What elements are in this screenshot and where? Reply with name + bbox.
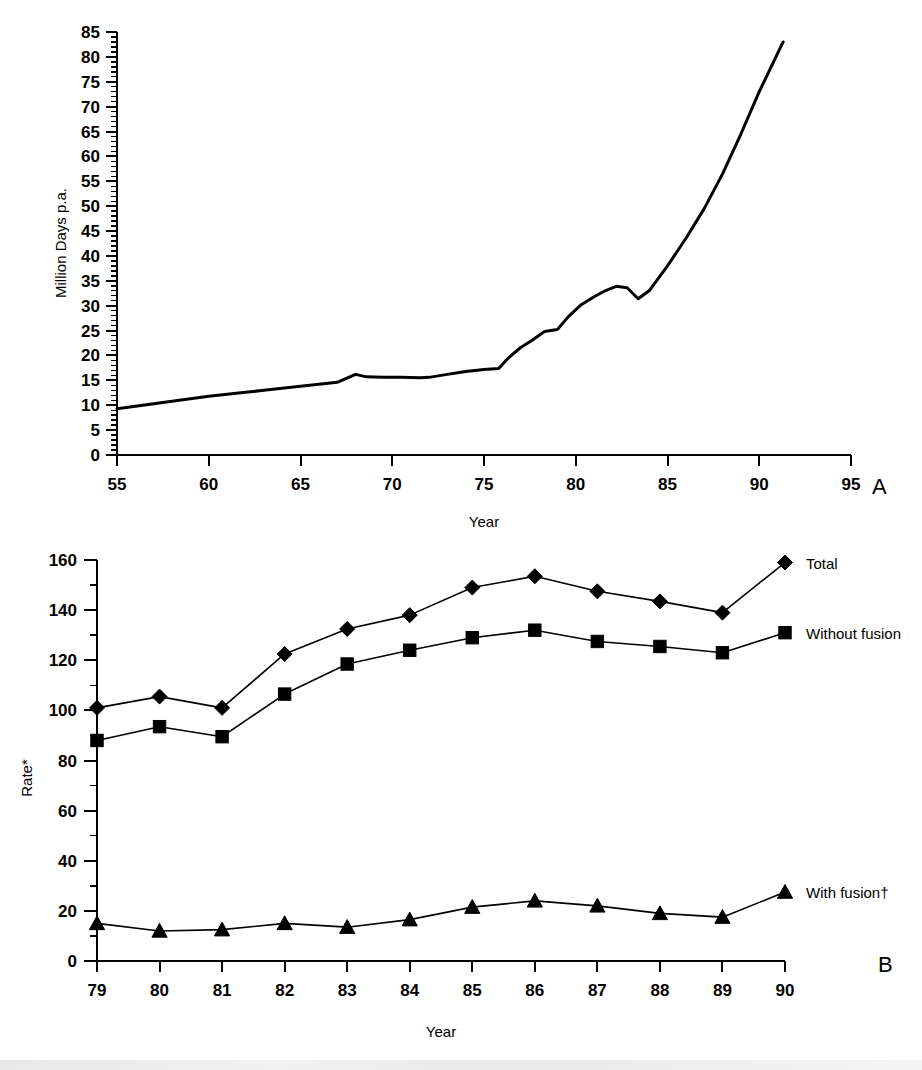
- square-marker: [341, 658, 353, 670]
- square-marker: [91, 734, 103, 746]
- panel-b-y-tick-label: 100: [49, 701, 77, 720]
- panel-b-y-tick-label: 60: [58, 802, 77, 821]
- panel-b-series-line: [97, 563, 785, 708]
- diamond-marker: [152, 689, 167, 704]
- panel-a-y-tick-label: 50: [81, 197, 100, 216]
- square-marker: [779, 626, 791, 638]
- panel-b-series-label-triangle: With fusion†: [806, 884, 889, 901]
- diamond-marker: [715, 605, 730, 620]
- panel-b-x-axis-ticks: [97, 961, 785, 972]
- panel-a-y-tick-label: 60: [81, 147, 100, 166]
- square-marker: [466, 631, 478, 643]
- page-bottom-artifact: [0, 1060, 922, 1070]
- panel-b-x-tick-label: 84: [400, 981, 419, 1000]
- panel-a-x-tick-label: 95: [842, 475, 861, 494]
- panel-a-y-tick-label: 45: [81, 222, 100, 241]
- diamond-marker: [590, 584, 605, 599]
- chart-panel-a: 0510152025303540455055606570758085 55606…: [0, 0, 922, 540]
- panel-b-x-axis-labels: 798081828384858687888990: [88, 981, 795, 1000]
- panel-a-y-tick-label: 75: [81, 73, 100, 92]
- panel-b-series-label-diamond: Total: [806, 555, 838, 572]
- panel-a-y-tick-label: 30: [81, 297, 100, 316]
- diamond-marker: [90, 700, 105, 715]
- panel-b-y-axis-ticks: [84, 560, 97, 961]
- panel-a-x-tick-label: 55: [108, 475, 127, 494]
- panel-b-y-tick-label: 40: [58, 852, 77, 871]
- panel-b-x-tick-label: 88: [650, 981, 669, 1000]
- panel-a-y-tick-label: 25: [81, 322, 100, 341]
- diamond-marker: [402, 608, 417, 623]
- panel-b-x-tick-label: 80: [150, 981, 169, 1000]
- panel-b-x-tick-label: 79: [88, 981, 107, 1000]
- panel-b-series-line: [97, 630, 785, 740]
- panel-b-svg: 020406080100120140160 798081828384858687…: [0, 530, 922, 1070]
- panel-b-series-group: [89, 555, 792, 937]
- diamond-marker: [465, 580, 480, 595]
- panel-a-svg: 0510152025303540455055606570758085 55606…: [0, 0, 922, 540]
- panel-b-x-tick-label: 90: [776, 981, 795, 1000]
- panel-b-x-tick-label: 82: [275, 981, 294, 1000]
- panel-b-x-tick-label: 87: [588, 981, 607, 1000]
- panel-a-y-tick-label: 0: [91, 446, 100, 465]
- diamond-marker: [778, 555, 793, 570]
- panel-b-y-tick-label: 20: [58, 902, 77, 921]
- panel-a-y-tick-label: 55: [81, 172, 100, 191]
- square-marker: [529, 624, 541, 636]
- triangle-marker: [89, 916, 104, 930]
- panel-a-x-tick-label: 80: [566, 475, 585, 494]
- figure-root: 0510152025303540455055606570758085 55606…: [0, 0, 922, 1070]
- chart-panel-b: 020406080100120140160 798081828384858687…: [0, 530, 922, 1070]
- square-marker: [591, 635, 603, 647]
- panel-a-x-tick-label: 85: [658, 475, 677, 494]
- panel-a-x-tick-label: 65: [291, 475, 310, 494]
- panel-a-x-axis-ticks: [117, 455, 851, 466]
- panel-b-x-tick-label: 81: [213, 981, 232, 1000]
- panel-a-x-tick-label: 70: [383, 475, 402, 494]
- diamond-marker: [340, 621, 355, 636]
- panel-b-y-tick-label: 140: [49, 601, 77, 620]
- panel-b-series-labels: TotalWithout fusionWith fusion†: [806, 555, 901, 902]
- panel-a-y-tick-label: 15: [81, 371, 100, 390]
- panel-a-x-tick-label: 60: [199, 475, 218, 494]
- panel-b-series-line: [97, 892, 785, 931]
- square-marker: [153, 720, 165, 732]
- panel-a-y-axis-ticks: [106, 32, 117, 455]
- panel-a-y-tick-label: 65: [81, 123, 100, 142]
- panel-b-x-tick-label: 89: [713, 981, 732, 1000]
- panel-a-y-tick-label: 5: [91, 421, 100, 440]
- panel-b-y-tick-label: 80: [58, 752, 77, 771]
- square-marker: [654, 640, 666, 652]
- panel-b-letter: B: [878, 952, 893, 977]
- panel-a-y-axis-labels: 0510152025303540455055606570758085: [81, 23, 100, 465]
- panel-a-y-tick-label: 70: [81, 98, 100, 117]
- square-marker: [404, 644, 416, 656]
- panel-a-letter: A: [872, 474, 887, 499]
- panel-a-y-tick-label: 10: [81, 396, 100, 415]
- panel-b-x-tick-label: 85: [463, 981, 482, 1000]
- square-marker: [716, 647, 728, 659]
- diamond-marker: [652, 594, 667, 609]
- panel-a-x-tick-label: 75: [475, 475, 494, 494]
- panel-a-x-axis-labels: 556065707580859095: [108, 475, 861, 494]
- panel-b-y-tick-label: 0: [68, 952, 77, 971]
- panel-a-x-axis-title: Year: [469, 513, 499, 530]
- panel-a-y-tick-label: 40: [81, 247, 100, 266]
- panel-a-y-axis-title: Million Days p.a.: [52, 188, 69, 298]
- panel-b-series-label-square: Without fusion: [806, 625, 901, 642]
- triangle-marker: [277, 916, 292, 930]
- triangle-marker: [777, 884, 792, 898]
- panel-b-y-axis-title: Rate*: [18, 759, 35, 797]
- panel-b-x-axis-title: Year: [426, 1023, 456, 1040]
- panel-a-x-tick-label: 90: [750, 475, 769, 494]
- panel-b-y-tick-label: 160: [49, 551, 77, 570]
- panel-b-y-tick-label: 120: [49, 651, 77, 670]
- square-marker: [216, 730, 228, 742]
- panel-b-x-tick-label: 83: [338, 981, 357, 1000]
- diamond-marker: [527, 569, 542, 584]
- square-marker: [278, 688, 290, 700]
- panel-a-y-tick-label: 80: [81, 48, 100, 67]
- panel-b-y-axis-labels: 020406080100120140160: [49, 551, 77, 971]
- panel-a-y-tick-label: 20: [81, 346, 100, 365]
- triangle-marker: [527, 893, 542, 907]
- panel-a-y-tick-label: 35: [81, 272, 100, 291]
